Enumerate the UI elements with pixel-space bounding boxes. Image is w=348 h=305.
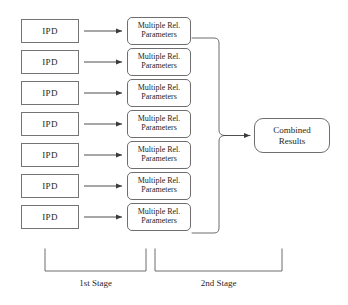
params-line-1: Multiple Rel.	[138, 83, 181, 92]
ipd-label: IPD	[42, 119, 57, 129]
ipd-box-4[interactable]: IPD	[21, 112, 79, 136]
params-line-2: Parameters	[138, 217, 181, 226]
params-label: Multiple Rel.Parameters	[138, 84, 181, 102]
stage2-label: 2nd Stage	[155, 278, 282, 288]
ipd-box-2[interactable]: IPD	[21, 50, 79, 74]
merge-connector-icon	[192, 38, 250, 233]
params-line-1: Multiple Rel.	[138, 52, 181, 61]
params-box-6[interactable]: Multiple Rel.Parameters	[127, 172, 191, 200]
ipd-label: IPD	[42, 212, 57, 222]
params-box-2[interactable]: Multiple Rel.Parameters	[127, 48, 191, 76]
ipd-label: IPD	[42, 26, 57, 36]
ipd-label: IPD	[42, 57, 57, 67]
params-line-2: Parameters	[138, 31, 181, 40]
stage2-bracket	[155, 249, 282, 271]
ipd-box-5[interactable]: IPD	[21, 143, 79, 167]
ipd-box-3[interactable]: IPD	[21, 81, 79, 105]
params-box-3[interactable]: Multiple Rel.Parameters	[127, 79, 191, 107]
stage1-bracket	[45, 249, 146, 271]
params-box-5[interactable]: Multiple Rel.Parameters	[127, 141, 191, 169]
params-line-1: Multiple Rel.	[138, 176, 181, 185]
ipd-label: IPD	[42, 88, 57, 98]
params-line-2: Parameters	[138, 62, 181, 71]
params-box-7[interactable]: Multiple Rel.Parameters	[127, 203, 191, 231]
params-line-2: Parameters	[138, 124, 181, 133]
params-line-2: Parameters	[138, 186, 181, 195]
ipd-label: IPD	[42, 181, 57, 191]
ipd-label: IPD	[42, 150, 57, 160]
params-box-4[interactable]: Multiple Rel.Parameters	[127, 110, 191, 138]
params-label: Multiple Rel.Parameters	[138, 53, 181, 71]
params-label: Multiple Rel.Parameters	[138, 208, 181, 226]
params-label: Multiple Rel.Parameters	[138, 22, 181, 40]
combined-line-1: Combined	[273, 125, 311, 135]
ipd-box-7[interactable]: IPD	[21, 205, 79, 229]
params-line-2: Parameters	[138, 155, 181, 164]
params-label: Multiple Rel.Parameters	[138, 177, 181, 195]
combined-results-box[interactable]: Combined Results	[254, 118, 330, 153]
combined-line-2: Results	[279, 136, 306, 146]
params-line-1: Multiple Rel.	[138, 207, 181, 216]
params-label: Multiple Rel.Parameters	[138, 146, 181, 164]
params-line-1: Multiple Rel.	[138, 145, 181, 154]
diagram-canvas: IPD IPD IPD IPD IPD IPD IPD Multiple Rel…	[0, 0, 348, 305]
stage-bracket-icon	[45, 249, 282, 271]
stage1-arrows	[84, 31, 122, 217]
params-line-1: Multiple Rel.	[138, 21, 181, 30]
params-line-2: Parameters	[138, 93, 181, 102]
stage1-label: 1st Stage	[45, 278, 146, 288]
params-box-1[interactable]: Multiple Rel.Parameters	[127, 17, 191, 45]
combined-results-label: Combined Results	[273, 125, 311, 145]
ipd-box-6[interactable]: IPD	[21, 174, 79, 198]
params-line-1: Multiple Rel.	[138, 114, 181, 123]
ipd-box-1[interactable]: IPD	[21, 19, 79, 43]
params-label: Multiple Rel.Parameters	[138, 115, 181, 133]
